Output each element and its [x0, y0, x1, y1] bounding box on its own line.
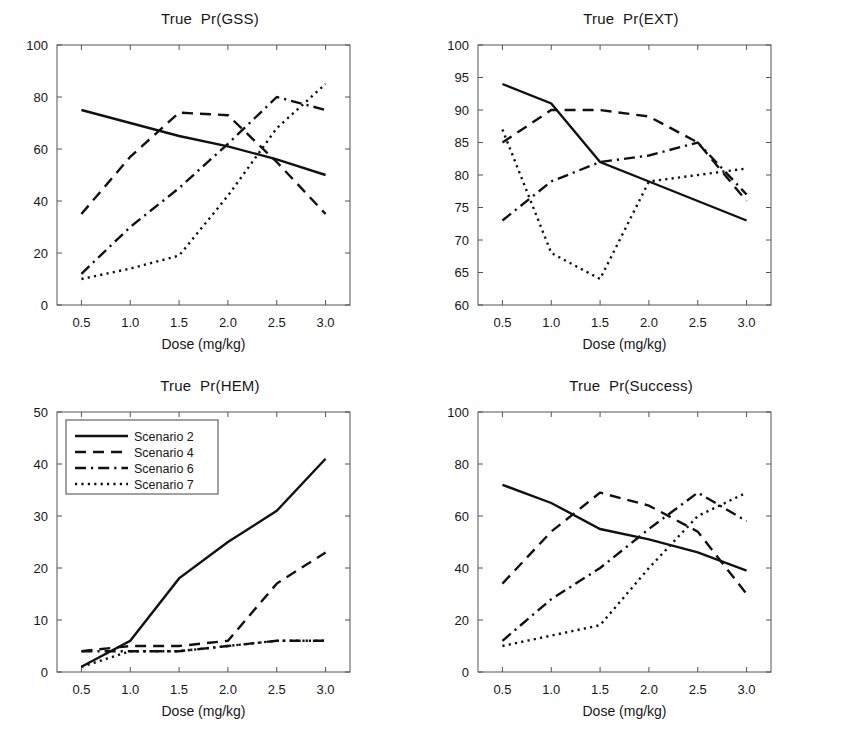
x-axis-tick-label: 1.0	[542, 315, 560, 330]
x-axis-tick-label: 2.0	[219, 682, 237, 697]
panel-success: True Pr(Success) 0204060801000.51.01.52.…	[421, 367, 841, 734]
series-line-dashdot	[502, 493, 746, 641]
panel-ext: True Pr(EXT) 60657075808590951000.51.01.…	[421, 0, 841, 367]
legend-label: Scenario 7	[134, 478, 194, 492]
y-axis-tick-label: 20	[455, 613, 469, 628]
x-axis-title: Dose (mg/kg)	[161, 336, 245, 352]
y-axis-tick-label: 95	[455, 70, 469, 85]
plot-area-ext: 60657075808590951000.51.01.52.02.53.0Dos…	[421, 0, 841, 367]
series-line-dashed	[81, 552, 325, 651]
y-axis-tick-label: 0	[41, 298, 48, 313]
series-line-dashdot	[502, 143, 746, 221]
y-axis-tick-label: 80	[455, 168, 469, 183]
y-axis-tick-label: 65	[455, 265, 469, 280]
y-axis-tick-label: 80	[34, 90, 48, 105]
x-axis-tick-label: 1.5	[591, 315, 609, 330]
series-line-solid	[502, 84, 746, 221]
series-line-dotted	[502, 493, 746, 646]
x-axis-tick-label: 1.0	[121, 315, 139, 330]
x-axis-title: Dose (mg/kg)	[161, 703, 245, 719]
plot-area-success: 0204060801000.51.01.52.02.53.0Dose (mg/k…	[421, 367, 841, 734]
y-axis-tick-label: 100	[447, 38, 469, 53]
y-axis-tick-label: 100	[447, 405, 469, 420]
series-line-dotted	[502, 130, 746, 280]
series-line-dotted	[81, 641, 325, 667]
x-axis-tick-label: 2.0	[219, 315, 237, 330]
x-axis-tick-label: 2.5	[268, 682, 286, 697]
y-axis-tick-label: 10	[34, 613, 48, 628]
x-axis-tick-label: 1.0	[121, 682, 139, 697]
x-axis-tick-label: 2.0	[640, 682, 658, 697]
plot-area-gss: 0204060801000.51.01.52.02.53.0Dose (mg/k…	[0, 0, 420, 367]
y-axis-tick-label: 60	[455, 509, 469, 524]
x-axis-tick-label: 3.0	[317, 315, 335, 330]
plot-frame	[478, 412, 771, 672]
y-axis-tick-label: 60	[455, 298, 469, 313]
y-axis-tick-label: 0	[41, 665, 48, 680]
series-line-solid	[502, 485, 746, 571]
x-axis-tick-label: 0.5	[72, 315, 90, 330]
y-axis-tick-label: 20	[34, 246, 48, 261]
y-axis-tick-label: 75	[455, 200, 469, 215]
y-axis-tick-label: 100	[26, 38, 48, 53]
x-axis-tick-label: 2.5	[689, 682, 707, 697]
x-axis-tick-label: 1.5	[170, 315, 188, 330]
x-axis-tick-label: 2.5	[268, 315, 286, 330]
y-axis-tick-label: 0	[462, 665, 469, 680]
y-axis-tick-label: 85	[455, 135, 469, 150]
x-axis-title: Dose (mg/kg)	[582, 703, 666, 719]
y-axis-tick-label: 70	[455, 233, 469, 248]
x-axis-tick-label: 1.0	[542, 682, 560, 697]
x-axis-tick-label: 0.5	[493, 315, 511, 330]
plot-area-hem: 010203040500.51.01.52.02.53.0Dose (mg/kg…	[0, 367, 420, 734]
y-axis-tick-label: 40	[34, 194, 48, 209]
x-axis-tick-label: 3.0	[738, 315, 756, 330]
x-axis-tick-label: 3.0	[317, 682, 335, 697]
y-axis-tick-label: 60	[34, 142, 48, 157]
y-axis-tick-label: 90	[455, 103, 469, 118]
x-axis-title: Dose (mg/kg)	[582, 336, 666, 352]
y-axis-tick-label: 40	[34, 457, 48, 472]
y-axis-tick-label: 30	[34, 509, 48, 524]
legend-label: Scenario 4	[134, 446, 194, 460]
panel-hem: True Pr(HEM) 010203040500.51.01.52.02.53…	[0, 367, 420, 734]
y-axis-tick-label: 50	[34, 405, 48, 420]
y-axis-tick-label: 40	[455, 561, 469, 576]
plot-frame	[57, 45, 350, 305]
x-axis-tick-label: 3.0	[738, 682, 756, 697]
series-line-dashdot	[81, 97, 325, 274]
x-axis-tick-label: 0.5	[493, 682, 511, 697]
x-axis-tick-label: 0.5	[72, 682, 90, 697]
panel-gss: True Pr(GSS) 0204060801000.51.01.52.02.5…	[0, 0, 420, 367]
y-axis-tick-label: 20	[34, 561, 48, 576]
x-axis-tick-label: 1.5	[170, 682, 188, 697]
figure-four-panel-dose-response: True Pr(GSS) 0204060801000.51.01.52.02.5…	[0, 0, 841, 734]
legend-label: Scenario 2	[134, 430, 194, 444]
y-axis-tick-label: 80	[455, 457, 469, 472]
x-axis-tick-label: 1.5	[591, 682, 609, 697]
x-axis-tick-label: 2.5	[689, 315, 707, 330]
legend-label: Scenario 6	[134, 462, 194, 476]
series-line-dashed	[502, 493, 746, 594]
x-axis-tick-label: 2.0	[640, 315, 658, 330]
